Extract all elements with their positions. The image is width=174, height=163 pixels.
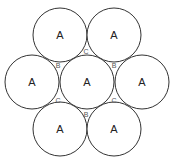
circle-label: A bbox=[110, 29, 118, 41]
interstitial-label-b-upper-left: B bbox=[56, 62, 61, 69]
circle-label: A bbox=[56, 29, 64, 41]
hexagonal-packing-diagram: A A A A A A A C B B C C B bbox=[0, 0, 174, 163]
circle-mid-left: A bbox=[5, 55, 59, 109]
interstitial-label-c-lower-left: C bbox=[55, 97, 60, 104]
circle-label: A bbox=[28, 76, 36, 88]
circle-label: A bbox=[110, 123, 118, 135]
circle-top-left: A bbox=[33, 8, 87, 62]
interstitial-label-b-upper-right: B bbox=[112, 62, 117, 69]
interstitial-label-c-top: C bbox=[83, 48, 88, 55]
circle-label: A bbox=[83, 76, 91, 88]
interstitial-label-b-bottom: B bbox=[84, 111, 89, 118]
circle-label: A bbox=[56, 123, 64, 135]
circle-label: A bbox=[138, 76, 146, 88]
circle-mid-right: A bbox=[115, 55, 169, 109]
circle-top-right: A bbox=[87, 8, 141, 62]
circle-center: A bbox=[60, 55, 114, 109]
circle-bottom-right: A bbox=[87, 102, 141, 156]
circle-bottom-left: A bbox=[33, 102, 87, 156]
interstitial-label-c-lower-right: C bbox=[111, 97, 116, 104]
